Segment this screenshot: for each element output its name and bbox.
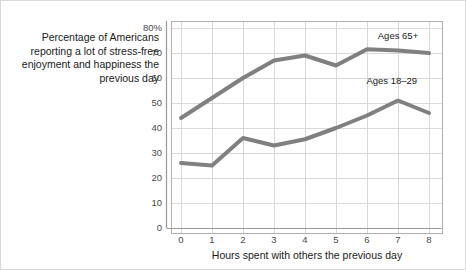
y-tick-label: 30 — [151, 147, 162, 158]
x-tick-label: 8 — [426, 234, 431, 245]
y-tick-label: 0 — [157, 222, 162, 233]
x-tick-label: 1 — [209, 234, 214, 245]
series-label-0: Ages 65+ — [378, 30, 419, 41]
x-tick-label: 3 — [271, 234, 276, 245]
y-tick-label: 10 — [151, 197, 162, 208]
x-axis-title: Hours spent with others the previous day — [171, 249, 443, 261]
chart-figure: Percentage of Americans reporting a lot … — [0, 0, 466, 270]
y-tick-label: 50 — [151, 97, 162, 108]
chart-svg: Ages 65+Ages 18–29 — [171, 21, 443, 234]
x-tick-label: 2 — [240, 234, 245, 245]
x-tick-label: 4 — [302, 234, 307, 245]
plot-area: Ages 65+Ages 18–29 — [171, 21, 443, 234]
x-tick-label: 5 — [333, 234, 338, 245]
x-tick-label: 7 — [395, 234, 400, 245]
x-tick-label: 0 — [178, 234, 183, 245]
x-axis-tick-labels: 012345678 — [178, 234, 431, 245]
y-tick-label: 20 — [151, 172, 162, 183]
x-tick-label: 6 — [364, 234, 369, 245]
chart-caption: Percentage of Americans reporting a lot … — [9, 31, 159, 85]
y-tick-label: 40 — [151, 122, 162, 133]
series-label-1: Ages 18–29 — [366, 75, 417, 86]
